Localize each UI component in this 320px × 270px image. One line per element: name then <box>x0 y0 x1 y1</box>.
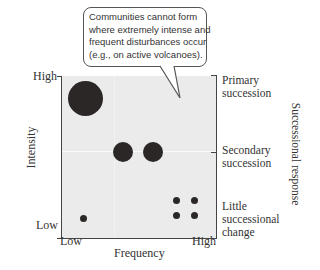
y-axis-title: Intensity <box>24 123 39 173</box>
data-point-small <box>173 212 180 219</box>
response-little-line-2: successional <box>222 213 279 226</box>
data-point-small <box>191 197 198 204</box>
bracket-tick-middle <box>211 152 217 153</box>
data-point-small <box>173 197 180 204</box>
response-secondary: Secondary succession <box>222 144 271 170</box>
x-label-high: High <box>192 235 216 247</box>
response-little-change: Little successional change <box>222 200 279 239</box>
response-secondary-line-2: succession <box>222 157 271 170</box>
data-point-small <box>191 212 198 219</box>
x-label-low: Low <box>60 235 82 247</box>
data-point-medium <box>143 142 163 162</box>
response-little-line-1: Little <box>222 200 279 213</box>
response-secondary-line-1: Secondary <box>222 144 271 157</box>
plot-divider <box>62 151 216 152</box>
bracket-tick-bottom <box>211 238 217 239</box>
callout-pointer-icon <box>0 0 320 120</box>
y-label-low: Low <box>36 219 58 231</box>
data-point-small <box>80 215 87 222</box>
response-little-line-3: change <box>222 226 279 239</box>
data-point-medium <box>113 142 133 162</box>
x-axis-title: Frequency <box>114 246 165 261</box>
